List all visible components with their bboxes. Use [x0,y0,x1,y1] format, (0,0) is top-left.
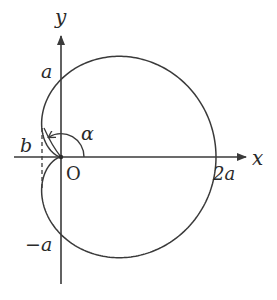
y-axis-label: y [54,5,67,29]
label-a: a [41,60,52,82]
label-b: b [20,134,32,156]
label-neg-a: −a [25,233,52,255]
x-axis-label: x [252,146,263,170]
origin-point [59,155,63,159]
origin-label: O [66,163,81,184]
label-alpha: α [81,122,94,144]
label-2a: 2a [212,163,235,184]
cardioid-diagram: y x O a −a 2a b α [0,0,277,300]
